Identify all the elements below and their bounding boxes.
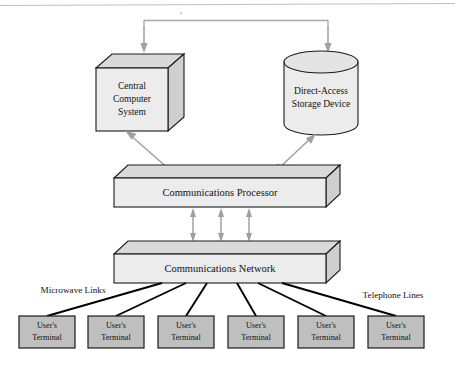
page-rule-artifact: [0, 4, 455, 6]
terminal-4[interactable]: User's Terminal: [228, 316, 284, 348]
link-line-4: [237, 283, 256, 316]
terminal-5[interactable]: User's Terminal: [298, 316, 354, 348]
terminal-3-label-line-1: User's: [176, 321, 196, 330]
vertical-double-arrow-1: [190, 208, 196, 242]
terminal-4-label-line-1: User's: [246, 321, 266, 330]
terminal-5-label-line-2: Terminal: [311, 333, 341, 342]
terminal-1[interactable]: User's Terminal: [19, 316, 75, 348]
communications-processor-label: Communications Processor: [162, 187, 278, 198]
telephone-lines-label: Telephone Lines: [363, 290, 424, 300]
storage-device-top-ellipse: [284, 51, 358, 73]
node-direct-access-storage-device[interactable]: Direct-Access Storage Device: [284, 51, 358, 135]
terminal-2-label-line-2: Terminal: [101, 333, 131, 342]
terminal-2-label-line-1: User's: [106, 321, 126, 330]
node-communications-network[interactable]: Communications Network: [114, 241, 340, 283]
microwave-links-label: Microwave Links: [40, 285, 105, 295]
terminal-3-label-line-2: Terminal: [171, 333, 201, 342]
network-diagram: Central Computer System Direct-Access St…: [0, 0, 455, 365]
terminal-1-label-line-2: Terminal: [32, 333, 62, 342]
top-rail-connector: [140, 21, 331, 54]
link-line-2: [116, 283, 186, 316]
terminal-6-label-line-1: User's: [386, 321, 406, 330]
central-computer-label-line-3: System: [118, 107, 147, 117]
communications-network-label: Communications Network: [164, 263, 276, 274]
node-central-computer-system[interactable]: Central Computer System: [96, 54, 184, 131]
central-computer-side-face: [168, 54, 184, 131]
processor-top-face: [114, 165, 340, 178]
vertical-double-arrow-3: [246, 208, 252, 242]
terminal-3[interactable]: User's Terminal: [158, 316, 214, 348]
vertical-double-arrow-2: [218, 208, 224, 242]
arrowhead-to-central-computer: [140, 43, 147, 53]
storage-device-label-line-2: Storage Device: [292, 99, 350, 109]
terminal-6-label-line-2: Terminal: [381, 333, 411, 342]
diagram-canvas: Central Computer System Direct-Access St…: [0, 0, 455, 365]
link-line-5: [258, 283, 326, 316]
terminal-1-label-line-1: User's: [37, 321, 57, 330]
central-computer-label-line-2: Computer: [113, 94, 152, 104]
central-computer-label-line-1: Central: [118, 81, 146, 91]
scan-speck-artifact: [180, 12, 182, 14]
arrows-processor-to-network: [190, 208, 252, 242]
terminal-2[interactable]: User's Terminal: [88, 316, 144, 348]
link-line-3: [186, 283, 207, 316]
terminal-4-label-line-2: Terminal: [241, 333, 271, 342]
storage-device-label-line-1: Direct-Access: [294, 86, 348, 96]
network-top-face: [114, 241, 340, 254]
node-communications-processor[interactable]: Communications Processor: [114, 165, 340, 207]
terminal-5-label-line-1: User's: [316, 321, 336, 330]
terminal-6[interactable]: User's Terminal: [368, 316, 424, 348]
